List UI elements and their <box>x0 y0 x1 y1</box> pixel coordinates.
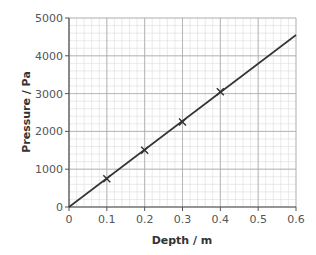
y-tick-label: 5000 <box>35 12 63 25</box>
axes <box>65 18 296 211</box>
x-tick-label: 0.3 <box>174 213 192 226</box>
y-axis-title: Pressure / Pa <box>20 71 33 153</box>
y-tick-label: 2000 <box>35 125 63 138</box>
y-tick-label: 1000 <box>35 163 63 176</box>
x-tick-label: 0.1 <box>98 213 116 226</box>
major-grid <box>69 18 296 207</box>
x-tick-label: 0.6 <box>287 213 305 226</box>
tick-labels: 00.10.20.30.40.50.6010002000300040005000 <box>35 12 305 226</box>
x-tick-label: 0 <box>66 213 73 226</box>
x-axis-title: Depth / m <box>152 234 213 247</box>
y-tick-label: 3000 <box>35 88 63 101</box>
y-tick-label: 4000 <box>35 50 63 63</box>
x-tick-label: 0.5 <box>249 213 267 226</box>
x-tick-label: 0.4 <box>212 213 230 226</box>
x-tick-label: 0.2 <box>136 213 154 226</box>
pressure-depth-chart: 00.10.20.30.40.50.6010002000300040005000… <box>0 0 316 255</box>
y-tick-label: 0 <box>56 201 63 214</box>
